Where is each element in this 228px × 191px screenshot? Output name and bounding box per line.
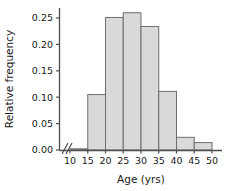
y-axis-group: 0.000.050.100.150.200.25 bbox=[32, 12, 60, 155]
histogram-bar bbox=[106, 17, 124, 150]
x-axis-tick-label: 35 bbox=[153, 155, 165, 166]
histogram-bar bbox=[159, 91, 177, 150]
y-axis-tick-label: 0.15 bbox=[32, 65, 53, 76]
x-axis-group: 101520253035404550 bbox=[64, 150, 218, 166]
histogram-chart: 0.000.050.100.150.200.25 101520253035404… bbox=[0, 0, 228, 191]
x-axis-tick-label: 25 bbox=[117, 155, 129, 166]
y-axis-tick-label: 0.20 bbox=[32, 39, 53, 50]
y-axis-tick-label: 0.10 bbox=[32, 92, 53, 103]
x-axis-title: Age (yrs) bbox=[117, 173, 165, 185]
y-axis-tick-label: 0.00 bbox=[32, 144, 53, 155]
histogram-bar bbox=[141, 26, 159, 150]
bars-group bbox=[70, 13, 212, 150]
chart-canvas: 0.000.050.100.150.200.25 101520253035404… bbox=[0, 0, 228, 191]
histogram-bar bbox=[194, 143, 212, 150]
y-axis-tick-label: 0.25 bbox=[32, 12, 53, 23]
y-axis-title: Relative frequency bbox=[3, 30, 15, 128]
x-axis-tick-label: 30 bbox=[135, 155, 147, 166]
x-axis-tick-label: 20 bbox=[99, 155, 111, 166]
x-axis-tick-label: 45 bbox=[188, 155, 200, 166]
x-axis-tick-label: 15 bbox=[82, 155, 94, 166]
x-axis-tick-label: 10 bbox=[64, 155, 76, 166]
x-axis-tick-label: 50 bbox=[206, 155, 218, 166]
x-axis-tick-label: 40 bbox=[170, 155, 182, 166]
histogram-bar bbox=[70, 149, 88, 150]
histogram-bar bbox=[123, 13, 141, 150]
y-axis-tick-label: 0.05 bbox=[32, 118, 53, 129]
histogram-bar bbox=[177, 137, 195, 150]
histogram-bar bbox=[88, 95, 106, 150]
